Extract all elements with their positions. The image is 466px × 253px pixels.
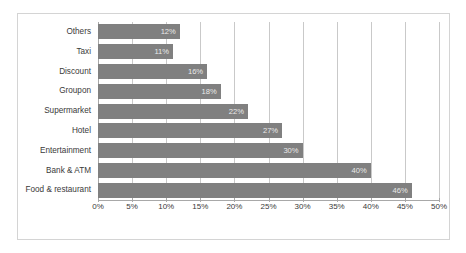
x-axis-tick-label: 5%: [126, 202, 138, 211]
x-axis-tick-label: 0%: [92, 202, 104, 211]
y-axis-tick-label: Entertainment: [18, 141, 97, 161]
bar[interactable]: 30%: [98, 143, 303, 158]
x-axis-tick-label: 20%: [226, 202, 242, 211]
bar[interactable]: 22%: [98, 104, 248, 119]
x-axis-tick-label: 15%: [192, 202, 208, 211]
y-axis-tick-label: Food & restaurant: [18, 180, 97, 200]
gridline: [439, 22, 440, 200]
x-axis-tick-label: 50%: [431, 202, 447, 211]
x-axis-tick-label: 30%: [295, 202, 311, 211]
y-axis-tick-label: Taxi: [18, 42, 97, 62]
bar-row: 30%: [98, 141, 439, 161]
bar[interactable]: 11%: [98, 44, 173, 59]
chart-frame: OthersTaxiDiscountGrouponSupermarketHote…: [17, 13, 450, 240]
bar[interactable]: 46%: [98, 183, 412, 198]
bar-value-label: 18%: [202, 84, 217, 99]
y-axis-category-labels: OthersTaxiDiscountGrouponSupermarketHote…: [18, 22, 97, 200]
bar[interactable]: 27%: [98, 123, 282, 138]
x-axis-tick-label: 10%: [158, 202, 174, 211]
bar-value-label: 46%: [393, 183, 408, 198]
bar-value-label: 16%: [188, 64, 203, 79]
bar-row: 40%: [98, 160, 439, 180]
bar-value-label: 27%: [263, 123, 278, 138]
chart-plot-area: 12%11%16%18%22%27%30%40%46%: [98, 22, 439, 200]
bar-row: 11%: [98, 42, 439, 62]
y-axis-tick-label: Supermarket: [18, 101, 97, 121]
y-axis-tick-label: Groupon: [18, 81, 97, 101]
bar-row: 16%: [98, 62, 439, 82]
bar[interactable]: 40%: [98, 163, 371, 178]
bar-row: 18%: [98, 81, 439, 101]
x-axis-tick-label: 35%: [329, 202, 345, 211]
chart-plot-wrapper: OthersTaxiDiscountGrouponSupermarketHote…: [18, 14, 449, 239]
x-axis-tick-label: 25%: [260, 202, 276, 211]
x-axis-tick-labels: 0%5%10%15%20%25%30%35%40%45%50%: [98, 202, 439, 218]
bar-value-label: 40%: [352, 163, 367, 178]
bar[interactable]: 16%: [98, 64, 207, 79]
bar[interactable]: 18%: [98, 84, 221, 99]
bar-value-label: 30%: [283, 143, 298, 158]
bar-row: 12%: [98, 22, 439, 42]
bar-row: 22%: [98, 101, 439, 121]
y-axis-tick-label: Hotel: [18, 121, 97, 141]
bar[interactable]: 12%: [98, 24, 180, 39]
bar-value-label: 12%: [161, 24, 176, 39]
x-axis-tick-label: 40%: [363, 202, 379, 211]
bar-row: 27%: [98, 121, 439, 141]
y-axis-tick-label: Others: [18, 22, 97, 42]
bar-value-label: 11%: [154, 44, 169, 59]
chart-bars: 12%11%16%18%22%27%30%40%46%: [98, 22, 439, 200]
bar-value-label: 22%: [229, 104, 244, 119]
x-axis-tick-label: 45%: [397, 202, 413, 211]
y-axis-tick-label: Bank & ATM: [18, 161, 97, 181]
y-axis-tick-label: Discount: [18, 62, 97, 82]
